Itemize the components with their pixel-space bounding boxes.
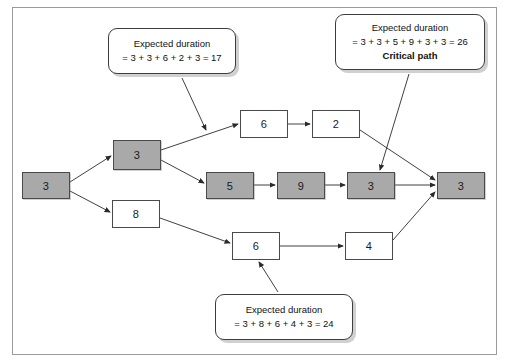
edge-a1-to-m1 — [161, 160, 204, 183]
node-label: 6 — [261, 118, 267, 130]
node-label: 3 — [134, 149, 140, 161]
node-t2: 2 — [312, 110, 360, 138]
edge-start-to-a1 — [70, 156, 111, 182]
callout-top-left: Expected duration= 3 + 3 + 6 + 2 + 3 = 1… — [108, 28, 236, 74]
callout-critical-path: Expected duration= 3 + 3 + 5 + 9 + 3 + 3… — [335, 14, 485, 70]
node-a1: 3 — [113, 140, 161, 170]
node-n2: 4 — [345, 232, 393, 260]
callout-line: = 3 + 8 + 6 + 4 + 3 = 24 — [234, 317, 333, 331]
node-m2: 9 — [277, 172, 325, 199]
callout-line: Expected duration — [372, 21, 449, 35]
callout-line: = 3 + 3 + 5 + 9 + 3 + 3 = 26 — [352, 35, 467, 49]
callout-critical-path-leader — [380, 74, 409, 170]
node-label: 3 — [43, 180, 49, 192]
callout-line: Critical path — [383, 49, 438, 63]
callout-line: Expected duration — [134, 37, 211, 51]
node-label: 2 — [333, 118, 339, 130]
node-end: 3 — [437, 172, 485, 199]
node-label: 9 — [298, 180, 304, 192]
node-m1: 5 — [206, 172, 254, 199]
callout-line: Expected duration — [246, 303, 323, 317]
callout-line: = 3 + 3 + 6 + 2 + 3 = 17 — [122, 51, 221, 65]
node-start: 3 — [22, 172, 70, 199]
node-label: 3 — [458, 180, 464, 192]
edge-b1-to-n1 — [160, 218, 230, 243]
node-label: 5 — [227, 180, 233, 192]
node-t1: 6 — [240, 110, 288, 138]
node-b1: 8 — [112, 200, 160, 228]
callout-bottom-leader — [259, 262, 278, 292]
node-label: 4 — [366, 240, 372, 252]
node-m3: 3 — [347, 172, 395, 199]
node-label: 3 — [368, 180, 374, 192]
node-label: 8 — [133, 208, 139, 220]
callout-bottom: Expected duration= 3 + 8 + 6 + 4 + 3 = 2… — [215, 294, 353, 340]
node-n1: 6 — [232, 232, 280, 260]
edge-a1-to-t1 — [161, 124, 238, 150]
edge-start-to-b1 — [70, 191, 110, 212]
diagram-canvas: 33862593643 Expected duration= 3 + 3 + 6… — [0, 0, 509, 363]
callout-top-left-leader — [182, 78, 206, 130]
edge-n2-to-end — [393, 192, 435, 240]
node-label: 6 — [253, 240, 259, 252]
